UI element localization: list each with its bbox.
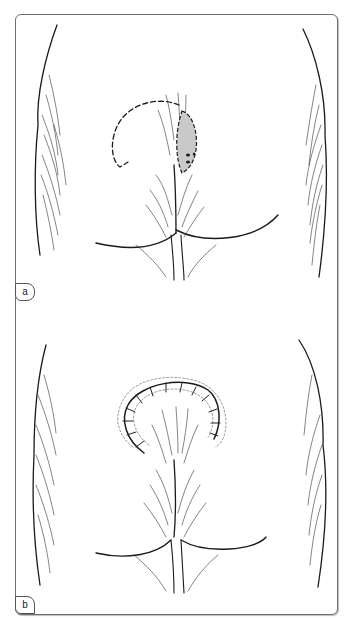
illustration-preoperative [16,15,337,315]
illustration-postoperative [16,315,337,614]
panel-b: b [16,315,337,614]
panel-label-b: b [15,596,35,614]
panel-label-a: a [15,283,35,301]
lesion-area [177,111,197,173]
figure-frame: a [15,14,338,615]
panel-a: a [16,15,337,315]
